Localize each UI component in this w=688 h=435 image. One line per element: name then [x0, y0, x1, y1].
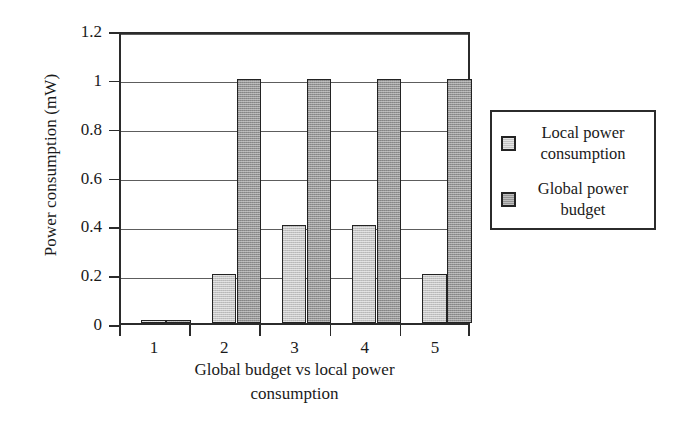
bar-group-3	[261, 34, 331, 323]
y-tick-label: 1.2	[81, 23, 102, 41]
bar-global-3	[307, 79, 332, 323]
bar-local-3	[282, 225, 307, 323]
bar-local-1	[141, 320, 166, 323]
x-tick-mark	[468, 325, 470, 336]
y-tick-mark	[109, 81, 119, 83]
legend-swatch-icon	[501, 192, 516, 207]
x-tick-mark	[119, 325, 121, 336]
legend-label-line-1: Local power	[518, 122, 648, 143]
y-tick-label: 0.6	[81, 170, 102, 188]
y-tick-label: 0.2	[81, 267, 102, 285]
bar-local-2	[212, 274, 237, 323]
legend-label-line-1: Global power	[518, 178, 648, 199]
legend-label-line-2: budget	[518, 199, 648, 220]
bar-group-4	[332, 34, 402, 323]
y-tick-mark	[109, 130, 119, 132]
bar-group-2	[191, 34, 261, 323]
legend-label-line-2: consumption	[518, 143, 648, 164]
x-tick-mark	[330, 325, 332, 336]
bar-global-5	[447, 79, 472, 323]
plot-inner	[121, 34, 468, 323]
x-tick-label-2: 2	[204, 338, 244, 358]
y-tick-label: 0.8	[81, 121, 102, 139]
chart-legend: Local powerconsumptionGlobal powerbudget	[490, 110, 656, 230]
y-tick-mark	[109, 179, 119, 181]
x-axis-title-line-1: Global budget vs local power	[119, 358, 470, 382]
bar-global-2	[237, 79, 262, 323]
x-tick-label-1: 1	[134, 338, 174, 358]
y-tick-mark	[109, 227, 119, 229]
x-axis-title-line-2: consumption	[119, 382, 470, 406]
y-axis-ticks: 00.20.40.60.811.2	[0, 0, 119, 435]
bar-chart-figure: Power consumption (mW) 00.20.40.60.811.2…	[0, 0, 688, 435]
legend-entry-local-power-consumption: Local powerconsumption	[492, 122, 654, 164]
legend-entry-global-power-budget: Global powerbudget	[492, 178, 654, 220]
y-tick-mark	[109, 325, 119, 327]
bar-group-1	[121, 34, 191, 323]
y-tick-mark	[109, 276, 119, 278]
y-tick-label: 1	[94, 72, 103, 90]
legend-label: Global powerbudget	[516, 178, 654, 220]
x-tick-mark	[189, 325, 191, 336]
y-tick-label: 0.4	[81, 218, 102, 236]
legend-label: Local powerconsumption	[516, 122, 654, 164]
y-tick-label: 0	[94, 316, 103, 334]
plot-area	[119, 32, 470, 325]
x-axis-title: Global budget vs local power consumption	[119, 358, 470, 406]
bar-global-1	[166, 320, 191, 323]
bar-local-4	[352, 225, 377, 323]
legend-swatch-icon	[501, 136, 516, 151]
bar-local-5	[422, 274, 447, 323]
bar-global-4	[377, 79, 402, 323]
x-tick-label-5: 5	[415, 338, 455, 358]
x-tick-label-4: 4	[345, 338, 385, 358]
x-tick-mark	[400, 325, 402, 336]
bar-group-5	[402, 34, 472, 323]
x-tick-label-3: 3	[275, 338, 315, 358]
y-tick-mark	[109, 32, 119, 34]
x-tick-mark	[259, 325, 261, 336]
